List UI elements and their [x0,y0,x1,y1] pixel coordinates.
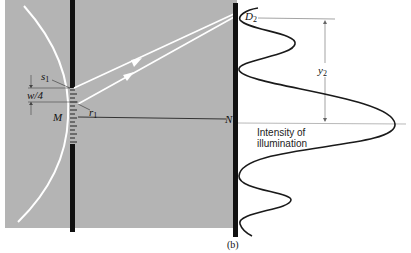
diffraction-diagram: w/4 s1 r1 M N D2 y2 Intensity of illumin… [0,0,411,253]
axis-extension [237,123,406,124]
slit-barrier-bottom [70,144,75,232]
intensity-label-line1: Intensity of [257,127,306,138]
figure-caption: (b) [227,239,239,251]
intensity-label-line2: illumination [257,138,307,149]
arrow-icon [323,20,327,24]
label-M: M [52,111,63,123]
d2-guide [258,18,335,19]
screen [233,3,238,237]
label-N: N [224,113,233,125]
label-w4: w/4 [27,89,43,101]
arrow-icon [323,118,327,122]
intensity-curve [239,8,395,236]
slit-barrier-top [70,0,75,88]
